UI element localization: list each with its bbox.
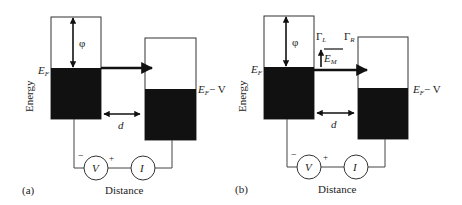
- x-axis-label: Distance: [318, 183, 357, 195]
- y-axis-label: Energy: [236, 80, 248, 112]
- panel-b: φ ΓL ΓR EM EF EF− V d Energy V I − + Dis…: [235, 16, 441, 196]
- filled-states: [51, 68, 101, 119]
- fermi-level-right-label: EF− V: [412, 83, 441, 97]
- left-electrode: [51, 17, 101, 119]
- fermi-level-left-label: EF: [37, 64, 50, 78]
- gamma-right-label: ΓR: [344, 30, 355, 44]
- fermi-level-right-label: EF− V: [197, 83, 226, 97]
- work-function-label: φ: [292, 36, 298, 48]
- gap-label: d: [331, 118, 337, 130]
- right-electrode: [358, 37, 408, 139]
- filled-states: [264, 67, 314, 119]
- right-electrode: [145, 38, 196, 140]
- minus-sign: −: [291, 149, 297, 160]
- molecular-level-label: EM: [323, 52, 338, 66]
- fermi-level-left-label: EF: [250, 63, 263, 77]
- left-electrode: [264, 16, 314, 119]
- work-function-label: φ: [79, 37, 85, 49]
- x-axis-label: Distance: [105, 184, 144, 196]
- y-axis-label: Energy: [23, 80, 35, 112]
- panel-tag: (a): [22, 184, 35, 197]
- gamma-left-label: ΓL: [316, 30, 326, 44]
- filled-states: [358, 88, 408, 139]
- gap-label: d: [118, 119, 124, 131]
- plus-sign: +: [323, 152, 328, 162]
- panel-a: φ EF EF− V d Energy V I − + Distance (a): [22, 17, 226, 197]
- minus-sign: −: [78, 150, 84, 161]
- tunneling-diagram: φ EF EF− V d Energy V I − + Distance (a): [0, 0, 462, 205]
- panel-tag: (b): [235, 183, 248, 196]
- plus-sign: +: [109, 153, 114, 163]
- filled-states: [145, 89, 196, 140]
